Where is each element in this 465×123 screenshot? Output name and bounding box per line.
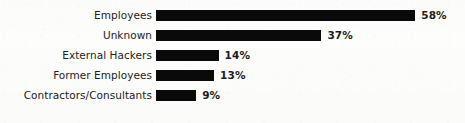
bar-track [156,70,214,81]
category-label: Employees [0,8,152,23]
bar-row: Unknown 37% [0,28,465,48]
bar-value-label: 37% [327,28,352,43]
bar-track [156,50,219,61]
category-label: Unknown [0,28,152,43]
bar-fill [156,30,321,41]
bar-fill [156,70,214,81]
bar-row: Former Employees 13% [0,68,465,88]
category-label: External Hackers [0,48,152,63]
bar-value-label: 9% [202,88,220,103]
bar-fill [156,90,196,101]
bar-track [156,90,196,101]
bar-chart: Employees 58% Unknown 37% External Hacke… [0,0,465,123]
bar-track [156,30,321,41]
bar-row: Contractors/Consultants 9% [0,88,465,108]
category-label: Former Employees [0,68,152,83]
bar-fill [156,50,219,61]
category-label: Contractors/Consultants [0,88,152,103]
bar-track [156,10,415,21]
bar-row: External Hackers 14% [0,48,465,68]
bar-value-label: 13% [220,68,245,83]
bar-value-label: 14% [225,48,250,63]
bar-row: Employees 58% [0,8,465,28]
bar-fill [156,10,415,21]
bar-value-label: 58% [421,8,446,23]
